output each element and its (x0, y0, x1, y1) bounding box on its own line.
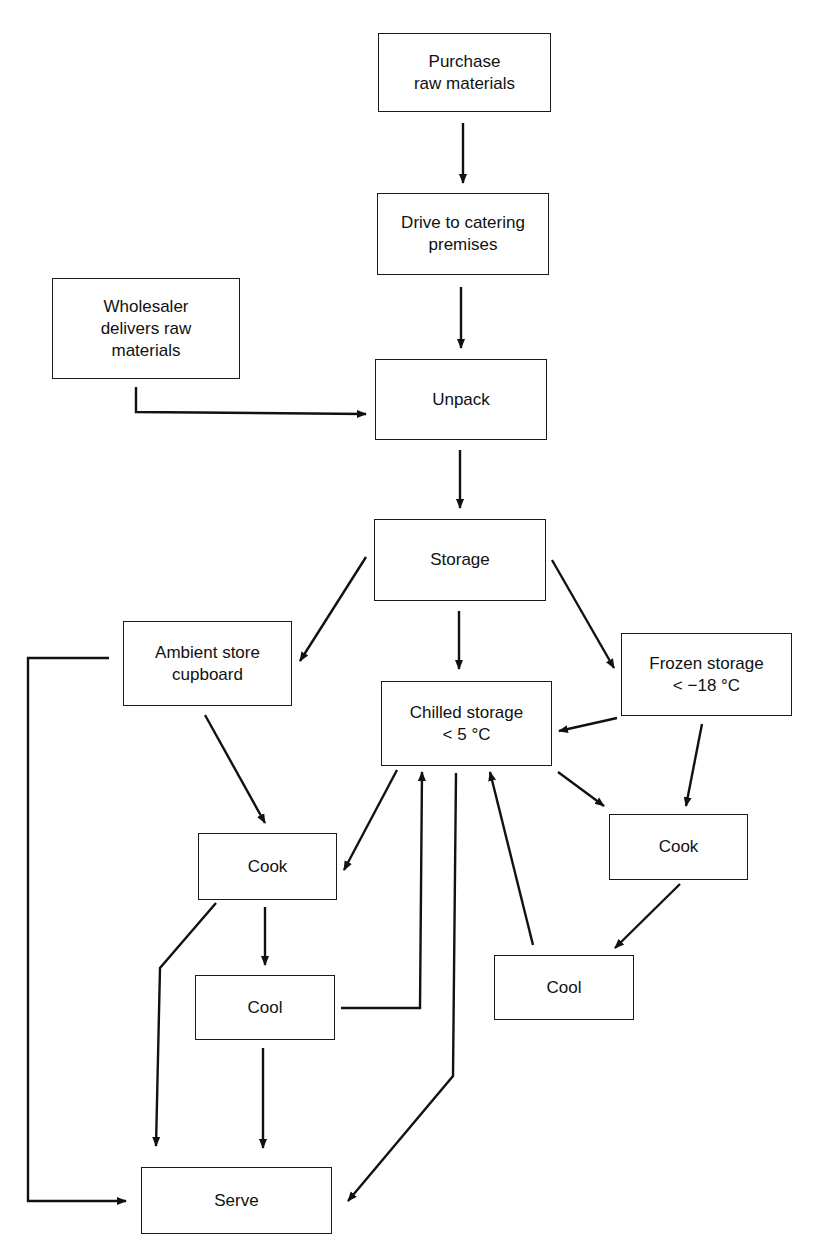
node-purchase: Purchase raw materials (378, 33, 551, 112)
node-cook-left: Cook (198, 833, 337, 900)
arrow-cool-left-to-chilled (341, 772, 422, 1008)
node-drive: Drive to catering premises (377, 193, 549, 275)
node-cool-right: Cool (494, 955, 634, 1020)
node-ambient: Ambient store cupboard (123, 621, 292, 706)
node-label: Cook (248, 856, 288, 878)
arrow-chilled-to-serve (348, 773, 456, 1201)
arrow-wholesaler-to-unpack (136, 387, 366, 414)
arrow-chilled-to-cook-left (344, 770, 397, 870)
arrow-storage-to-frozen (552, 560, 614, 668)
arrow-ambient-to-serve (28, 658, 126, 1201)
arrow-frozen-to-cook-right (686, 724, 702, 806)
node-serve: Serve (141, 1167, 332, 1234)
node-unpack: Unpack (375, 359, 547, 440)
node-label: Purchase raw materials (414, 51, 515, 95)
node-label: Serve (214, 1190, 258, 1212)
node-cool-left: Cool (195, 975, 335, 1040)
arrow-cool-right-to-chilled (490, 772, 533, 945)
node-storage: Storage (374, 519, 546, 601)
node-cook-right: Cook (609, 814, 748, 880)
arrow-frozen-to-chilled (559, 718, 617, 731)
arrow-ambient-to-cook-left (205, 715, 265, 823)
node-frozen: Frozen storage < −18 °C (621, 633, 792, 716)
node-label: Cool (547, 977, 582, 999)
arrow-cook-right-to-cool-right (615, 884, 680, 948)
node-label: Frozen storage < −18 °C (649, 653, 763, 697)
node-label: Wholesaler delivers raw materials (101, 296, 192, 362)
arrow-storage-to-ambient (300, 557, 366, 661)
node-label: Cool (248, 997, 283, 1019)
node-wholesaler: Wholesaler delivers raw materials (52, 278, 240, 379)
node-label: Chilled storage < 5 °C (410, 702, 523, 746)
node-label: Unpack (432, 389, 490, 411)
node-label: Drive to catering premises (401, 212, 525, 256)
node-label: Cook (659, 836, 699, 858)
node-label: Storage (430, 549, 490, 571)
node-chilled: Chilled storage < 5 °C (381, 681, 552, 766)
node-label: Ambient store cupboard (155, 642, 260, 686)
arrow-chilled-to-cook-right (558, 772, 604, 806)
